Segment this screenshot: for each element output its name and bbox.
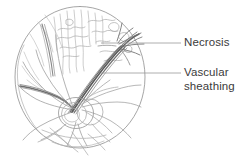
lower-hatch-marks <box>50 128 105 155</box>
label-vascular-sheathing-line1: Vascular <box>184 66 235 80</box>
necrosis-fan <box>98 23 144 65</box>
label-vascular-sheathing-line2: sheathing <box>184 80 235 94</box>
label-vascular-sheathing: Vascular sheathing <box>184 66 235 93</box>
retina-texture-upper-left <box>22 15 62 94</box>
fundus-illustration: Necrosis Vascular sheathing <box>0 0 241 166</box>
label-necrosis-text: Necrosis <box>184 36 230 48</box>
label-necrosis: Necrosis <box>184 36 230 50</box>
